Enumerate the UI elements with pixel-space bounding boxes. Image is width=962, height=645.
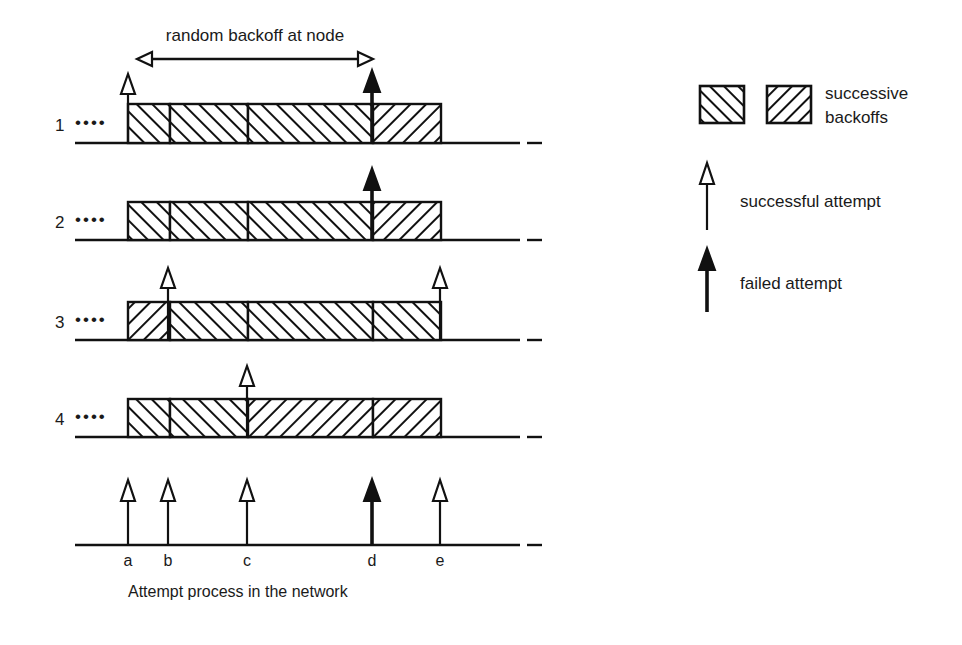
attempt-tick-d-label: d — [368, 552, 377, 569]
node-row-3: 3 •••• — [55, 268, 542, 340]
backoff-annotation-label: random backoff at node — [166, 26, 344, 45]
attempt-tick-e-label: e — [436, 552, 445, 569]
node-row-4-segment-3 — [248, 399, 373, 437]
node-row-1-arrow-d-head-solid-icon — [364, 70, 380, 92]
node-row-1-segment-1 — [128, 104, 170, 143]
node-row-3-segment-2 — [170, 302, 248, 340]
hatch-backward-swatch — [767, 86, 811, 123]
node-row-4-dots: •••• — [75, 407, 107, 426]
diagram-canvas: random backoff at node 1 •••• 2 •••• — [0, 0, 962, 645]
node-row-2-dots: •••• — [75, 210, 107, 229]
node-row-1: 1 •••• — [55, 70, 542, 143]
node-row-2-segment-1 — [128, 202, 170, 240]
node-row-2-segment-2 — [170, 202, 248, 240]
attempt-process-axis: a b c d e Attempt process in the network — [75, 479, 542, 600]
attempt-tick-a-label: a — [124, 552, 133, 569]
attempt-tick-b-label: b — [164, 552, 173, 569]
node-row-3-segment-3 — [248, 302, 373, 340]
attempt-tick-c-head-hollow-icon — [240, 480, 254, 501]
node-row-4-segment-1 — [128, 399, 170, 437]
legend: successive backoffs successful attempt f… — [699, 84, 908, 312]
node-row-3-segment-1 — [128, 302, 170, 340]
legend-successful-arrow-head-hollow-icon — [700, 163, 714, 184]
attempt-tick-a-head-hollow-icon — [121, 480, 135, 501]
attempt-tick-b-head-hollow-icon — [161, 480, 175, 501]
attempt-tick-c-label: c — [243, 552, 251, 569]
node-row-2-arrow-d-head-solid-icon — [364, 168, 380, 190]
attempt-axis-caption: Attempt process in the network — [128, 583, 349, 600]
hatch-forward-swatch — [700, 86, 744, 123]
backoff-diagram: random backoff at node 1 •••• 2 •••• — [0, 0, 962, 645]
node-row-3-dots: •••• — [75, 310, 107, 329]
node-row-3-segment-4 — [373, 302, 441, 340]
node-row-1-segment-4 — [373, 104, 441, 143]
attempt-tick-e-head-hollow-icon — [433, 480, 447, 501]
node-row-2-number: 2 — [55, 213, 64, 232]
node-row-4-number: 4 — [55, 410, 64, 429]
node-row-1-segment-2 — [170, 104, 248, 143]
legend-failed-arrow-head-solid-icon — [699, 248, 715, 270]
node-row-1-arrow-a-head-hollow-icon — [121, 74, 135, 94]
node-row-4-segment-2 — [170, 399, 248, 437]
node-row-3-arrow-e-head-hollow-icon — [433, 268, 447, 288]
backoff-annotation: random backoff at node — [137, 26, 373, 66]
node-row-1-dots: •••• — [75, 113, 107, 132]
attempt-tick-d-head-solid-icon — [364, 479, 380, 501]
legend-backoffs-label-line1: successive — [825, 84, 908, 103]
legend-backoffs-label-line2: backoffs — [825, 108, 888, 127]
legend-successful-label: successful attempt — [740, 192, 881, 211]
backoff-arrowhead-left-icon — [137, 52, 152, 66]
backoff-arrowhead-right-icon — [358, 52, 373, 66]
node-row-1-number: 1 — [55, 116, 64, 135]
node-row-4: 4 •••• — [55, 366, 542, 437]
node-row-2: 2 •••• — [55, 168, 542, 240]
node-row-2-segment-4 — [373, 202, 441, 240]
node-row-4-arrow-c-head-hollow-icon — [240, 366, 254, 386]
node-row-1-segment-3 — [248, 104, 373, 143]
node-row-2-segment-3 — [248, 202, 373, 240]
legend-failed-label: failed attempt — [740, 274, 842, 293]
node-row-3-arrow-b-head-hollow-icon — [161, 268, 175, 288]
node-row-4-segment-4 — [373, 399, 441, 437]
node-row-3-number: 3 — [55, 313, 64, 332]
